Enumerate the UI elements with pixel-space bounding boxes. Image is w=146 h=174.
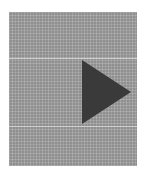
divider-line-top (9, 58, 137, 59)
play-icon[interactable] (82, 60, 131, 124)
divider-line-bottom (9, 126, 137, 127)
video-thumbnail-panel[interactable] (9, 12, 137, 166)
